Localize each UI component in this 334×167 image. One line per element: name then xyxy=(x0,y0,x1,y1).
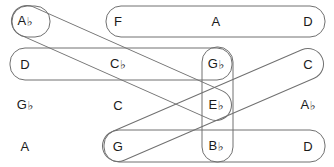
note-letter: C xyxy=(110,56,120,71)
note-letter: E xyxy=(208,97,217,112)
note-label-r4c2: G xyxy=(113,140,123,153)
note-letter: C xyxy=(113,98,123,113)
flat-icon: ♭ xyxy=(310,99,316,113)
note-label-r3c2: C xyxy=(113,99,123,112)
note-letter: D xyxy=(303,14,313,29)
note-letter: G xyxy=(17,97,27,112)
note-letter: D xyxy=(303,139,313,154)
note-label-r4c1: A xyxy=(21,140,30,153)
note-label-r2c3: G♭ xyxy=(208,57,225,71)
note-letter: G xyxy=(208,56,218,71)
note-letter: G xyxy=(113,139,123,154)
flat-icon: ♭ xyxy=(120,58,126,72)
note-label-r2c2: C♭ xyxy=(110,57,126,71)
note-label-r1c4: D xyxy=(303,15,313,28)
note-letter: D xyxy=(20,57,30,72)
note-label-r3c1: G♭ xyxy=(17,98,34,112)
note-letter: F xyxy=(114,14,122,29)
note-label-r1c2: F xyxy=(114,15,122,28)
note-label-r3c4: A♭ xyxy=(300,98,315,112)
note-letter: B xyxy=(208,138,217,153)
note-letter: C xyxy=(303,57,313,72)
flat-icon: ♭ xyxy=(218,140,224,154)
note-letter: A xyxy=(21,139,30,154)
note-letter: A xyxy=(300,97,309,112)
note-label-r1c1: A♭ xyxy=(17,14,32,28)
note-label-r2c4: C xyxy=(303,58,313,71)
flat-icon: ♭ xyxy=(218,58,224,72)
flat-icon: ♭ xyxy=(27,99,33,113)
note-label-r4c4: D xyxy=(303,140,313,153)
note-letter: A xyxy=(212,14,221,29)
flat-icon: ♭ xyxy=(27,15,33,29)
note-label-r4c3: B♭ xyxy=(208,139,223,153)
diagram-canvas: A♭FADDC♭G♭CG♭CE♭A♭AGB♭D xyxy=(0,0,334,167)
note-letter: A xyxy=(17,13,26,28)
grouping-overlay xyxy=(0,0,334,167)
flat-icon: ♭ xyxy=(218,99,224,113)
note-label-r2c1: D xyxy=(20,58,30,71)
note-label-r1c3: A xyxy=(212,15,221,28)
note-label-r3c3: E♭ xyxy=(208,98,223,112)
